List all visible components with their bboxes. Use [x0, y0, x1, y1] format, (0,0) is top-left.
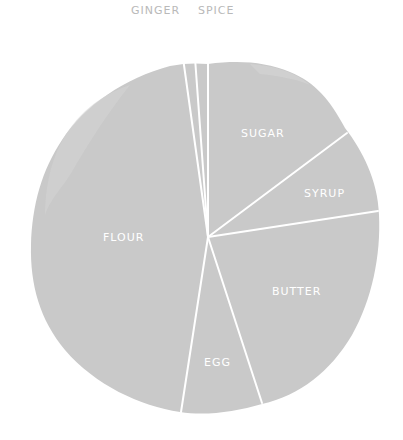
label-syrup: SYRUP	[304, 187, 345, 200]
label-egg: EGG	[204, 356, 231, 369]
label-spice: SPICE	[198, 4, 235, 17]
label-butter: BUTTER	[272, 285, 321, 298]
label-ginger: GINGER	[131, 4, 180, 17]
pie-chart: GINGER SPICE SUGAR SYRUP BUTTER EGG FLOU…	[0, 0, 403, 440]
label-sugar: SUGAR	[241, 127, 285, 140]
label-flour: FLOUR	[103, 231, 144, 244]
